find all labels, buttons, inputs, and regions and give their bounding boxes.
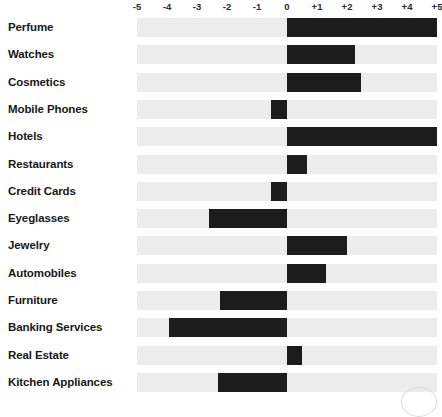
chart-row: Credit Cards	[0, 182, 439, 201]
bar-real-estate	[287, 346, 302, 365]
bar-eyeglasses	[209, 209, 287, 228]
chart-row: Real Estate	[0, 346, 439, 365]
axis-tick-0: 0	[284, 1, 289, 13]
chart-row: Mobile Phones	[0, 100, 439, 119]
chart-row: Jewelry	[0, 236, 439, 255]
chart-row: Cosmetics	[0, 73, 439, 92]
bar-mobile-phones	[271, 100, 288, 119]
bar-hotels	[287, 127, 437, 146]
chart-row: Automobiles	[0, 264, 439, 283]
page-corner-arc-artifact	[401, 387, 437, 417]
row-track	[137, 236, 437, 255]
bar-cosmetics	[287, 73, 361, 92]
bar-credit-cards	[271, 182, 288, 201]
row-label-automobiles: Automobiles	[8, 264, 77, 283]
row-label-watches: Watches	[8, 45, 54, 64]
bar-restaurants	[287, 155, 307, 174]
x-axis-tick-labels: -5-4-3-2-10+1+2+3+4+5	[137, 0, 437, 16]
row-label-perfume: Perfume	[8, 18, 53, 37]
bar-jewelry	[287, 236, 347, 255]
axis-tick--5: -5	[133, 1, 141, 13]
row-track	[137, 346, 437, 365]
axis-tick-+1: +1	[312, 1, 323, 13]
axis-tick--2: -2	[223, 1, 231, 13]
row-label-credit-cards: Credit Cards	[8, 182, 76, 201]
bar-automobiles	[287, 264, 326, 283]
axis-tick--4: -4	[163, 1, 171, 13]
row-label-restaurants: Restaurants	[8, 155, 73, 174]
row-track	[137, 291, 437, 310]
row-label-real-estate: Real Estate	[8, 346, 69, 365]
row-label-hotels: Hotels	[8, 127, 43, 146]
chart-row: Watches	[0, 45, 439, 64]
axis-tick--3: -3	[193, 1, 201, 13]
axis-tick-+4: +4	[402, 1, 413, 13]
chart-row: Perfume	[0, 18, 439, 37]
bar-kitchen-appliances	[218, 373, 287, 392]
row-label-mobile-phones: Mobile Phones	[8, 100, 88, 119]
row-label-banking-services: Banking Services	[8, 318, 102, 337]
row-track	[137, 264, 437, 283]
chart-row: Kitchen Appliances	[0, 373, 439, 392]
row-track	[137, 100, 437, 119]
row-track	[137, 155, 437, 174]
bar-perfume	[287, 18, 437, 37]
row-track	[137, 318, 437, 337]
row-track	[137, 18, 437, 37]
row-track	[137, 373, 437, 392]
bar-banking-services	[169, 318, 288, 337]
row-label-cosmetics: Cosmetics	[8, 73, 65, 92]
bar-furniture	[220, 291, 288, 310]
row-track	[137, 45, 437, 64]
chart-row: Banking Services	[0, 318, 439, 337]
row-track	[137, 182, 437, 201]
row-label-eyeglasses: Eyeglasses	[8, 209, 70, 228]
chart-row: Eyeglasses	[0, 209, 439, 228]
axis-tick--1: -1	[253, 1, 261, 13]
row-label-kitchen-appliances: Kitchen Appliances	[8, 373, 113, 392]
chart-row: Furniture	[0, 291, 439, 310]
axis-tick-+5: +5	[432, 1, 442, 13]
bar-watches	[287, 45, 355, 64]
row-track	[137, 209, 437, 228]
chart-row: Hotels	[0, 127, 439, 146]
axis-tick-+2: +2	[342, 1, 353, 13]
row-track	[137, 73, 437, 92]
row-label-furniture: Furniture	[8, 291, 58, 310]
axis-tick-+3: +3	[372, 1, 383, 13]
row-label-jewelry: Jewelry	[8, 236, 50, 255]
chart-row: Restaurants	[0, 155, 439, 174]
row-track	[137, 127, 437, 146]
